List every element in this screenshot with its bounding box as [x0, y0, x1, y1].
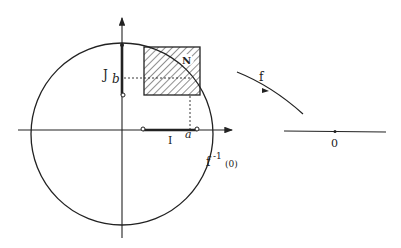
svg-text:-1: -1: [213, 151, 222, 161]
segment-i-left-point: [141, 127, 145, 131]
label-j: J: [101, 68, 108, 82]
svg-text:(0): (0): [225, 159, 238, 169]
label-zero: 0: [331, 137, 338, 150]
neighborhood-n: [144, 47, 200, 95]
label-i: I: [168, 134, 172, 147]
target-zero-point: [334, 130, 337, 133]
segment-j-top-point: [120, 43, 124, 47]
label-n: N: [182, 55, 191, 66]
map-f-curve: [237, 72, 303, 114]
segment-j-bottom-point: [121, 93, 125, 97]
svg-text:f: f: [206, 155, 212, 169]
label-a: a: [185, 128, 192, 141]
segment-i-right-point: [195, 127, 199, 131]
label-b: b: [112, 72, 120, 86]
map-f-arrowhead-icon: [262, 88, 269, 93]
label-f: f: [259, 70, 265, 84]
diagram-canvas: J b N f I a f -1 (0) 0: [0, 0, 401, 248]
